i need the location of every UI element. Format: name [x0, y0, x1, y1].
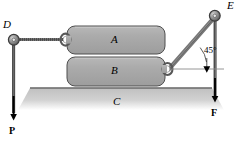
label-surface-c: C: [113, 96, 120, 107]
label-force-p: P: [9, 126, 15, 136]
label-pulley-d: D: [3, 19, 11, 30]
ground-surface: [18, 87, 224, 110]
label-block-b: B: [111, 65, 118, 76]
label-angle-45: 45°: [204, 46, 217, 55]
pulley-d: [8, 34, 19, 45]
label-pulley-e: E: [227, 0, 234, 11]
label-force-f: F: [211, 108, 217, 118]
label-block-a: A: [111, 34, 118, 45]
diagram-canvas: [0, 0, 238, 145]
mechanics-diagram-figure: D E A B C 45° P F: [0, 0, 238, 145]
pulley-e: [209, 10, 220, 21]
